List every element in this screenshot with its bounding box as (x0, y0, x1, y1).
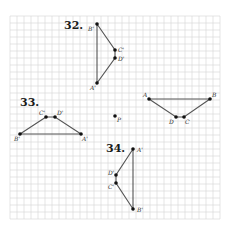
point-b-prime-34 (131, 207, 135, 211)
problem-33-number: 33. (20, 96, 39, 109)
label-a-prime-32: A' (89, 84, 96, 91)
label-p: P (116, 116, 122, 123)
problem-34-number: 34. (106, 142, 125, 155)
label-b: B (211, 91, 217, 98)
label-b-prime-34: B' (136, 206, 143, 213)
center-point-p: P (113, 114, 122, 123)
point-c-prime-34 (114, 181, 118, 185)
label-a: A (142, 91, 148, 98)
label-d: D (168, 118, 174, 125)
label-d-prime-32: D' (117, 55, 125, 62)
point-b-prime-32 (95, 22, 99, 26)
point-a (147, 97, 151, 101)
problem-34-outline (116, 149, 133, 209)
label-d-prime-34: D' (107, 169, 115, 176)
label-b-prime-32: B' (87, 25, 94, 32)
label-a-prime-34: A' (136, 146, 143, 153)
point-a-prime-34 (131, 147, 135, 151)
transformation-grid-figure: 32. B' C' D' A' A B D C 33. C' D' B' A' (0, 0, 227, 226)
point-d-prime-32 (113, 56, 117, 60)
label-b-prime-33: B' (13, 135, 20, 142)
label-a-prime-33: A' (81, 135, 88, 142)
original-outline (149, 99, 210, 117)
label-c-prime-32: C' (118, 46, 125, 53)
problem-32-figure: B' C' D' A' (87, 22, 125, 91)
problem-32-number: 32. (64, 19, 83, 32)
problem-33-outline (20, 117, 81, 134)
label-d-prime-33: D' (56, 109, 64, 116)
point-c-prime-32 (113, 48, 117, 52)
point-d (174, 115, 178, 119)
problem-32-outline (97, 24, 115, 83)
label-c: C (185, 118, 190, 125)
label-c-prime-34: C' (108, 183, 115, 190)
point-d-prime-34 (114, 173, 118, 177)
label-c-prime-33: C' (39, 109, 46, 116)
